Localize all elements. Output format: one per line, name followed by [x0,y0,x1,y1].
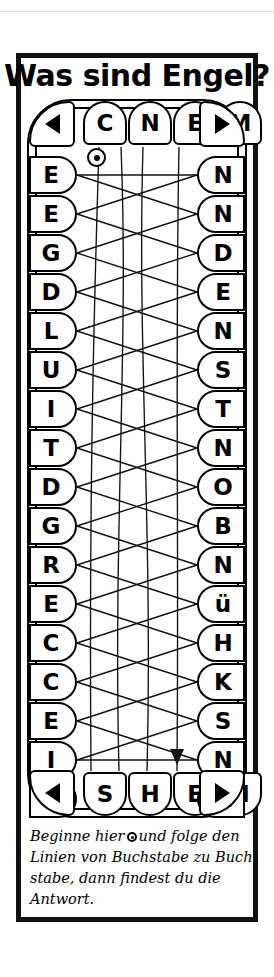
letter-cell-left-12[interactable]: C [29,624,77,662]
letter-cell-top-0[interactable]: C [83,101,127,145]
page-title: Was sind Engel? [16,55,258,95]
letter-cell-right-6[interactable]: T [197,390,245,428]
triangle-right-icon [215,114,230,134]
letter-cell-bottom-1[interactable]: H [128,772,172,816]
letter-cell-left-9[interactable]: G [29,507,77,545]
letter-cell-right-10[interactable]: N [197,546,245,584]
letter-cell-left-2[interactable]: G [29,234,77,272]
letter-cell-right-1[interactable]: N [197,195,245,233]
letter-cell-bottom-0[interactable]: S [83,772,127,816]
caption-line-4: Antwort. [30,889,242,910]
triangle-left-icon [45,114,60,134]
caption-line-3: stabe, dann findest du die [30,868,242,889]
letter-cell-left-7[interactable]: T [29,429,77,467]
letter-cell-left-3[interactable]: D [29,273,77,311]
puzzle-board: C N E M S H E N E E G D L U I T D G R E … [27,99,247,818]
caption-line-2: Linien von Buchstabe zu Buch- [30,847,242,868]
triangle-right-icon [215,783,230,803]
letter-cell-right-5[interactable]: S [197,351,245,389]
scan-edge-rule [0,11,274,12]
letter-cell-right-14[interactable]: S [197,702,245,740]
letter-cell-right-4[interactable]: N [197,312,245,350]
letter-cell-right-9[interactable]: B [197,507,245,545]
triangle-left-icon [45,783,60,803]
letter-cell-right-2[interactable]: D [197,234,245,272]
instructions-caption: Beginne hierund folge den Linien von Buc… [30,826,242,910]
letter-cell-left-6[interactable]: I [29,390,77,428]
letter-cell-right-7[interactable]: N [197,429,245,467]
start-marker-icon [87,148,106,167]
letter-cell-left-13[interactable]: C [29,663,77,701]
letter-cell-right-8[interactable]: O [197,468,245,506]
letter-cell-top-1[interactable]: N [128,101,172,145]
letter-cell-left-4[interactable]: L [29,312,77,350]
letter-cell-right-12[interactable]: H [197,624,245,662]
puzzle-page: Was sind Engel? [0,0,274,977]
caption-line-1-part-a: Beginne hier [30,828,125,844]
caption-line-1: Beginne hierund folge den [30,826,242,847]
caption-line-1-part-b: und folge den [139,828,240,844]
letter-cell-left-8[interactable]: D [29,468,77,506]
letter-cell-left-14[interactable]: E [29,702,77,740]
letter-cell-left-0[interactable]: E [29,156,77,194]
letter-cell-left-11[interactable]: E [29,585,77,623]
arrowhead-down-icon [170,749,184,765]
start-marker-inline-icon [127,832,137,842]
letter-cell-right-0[interactable]: N [197,156,245,194]
letter-cell-left-5[interactable]: U [29,351,77,389]
letter-cell-right-13[interactable]: K [197,663,245,701]
letter-cell-right-11[interactable]: ü [197,585,245,623]
letter-cell-right-3[interactable]: E [197,273,245,311]
letter-cell-left-1[interactable]: E [29,195,77,233]
letter-cell-left-10[interactable]: R [29,546,77,584]
